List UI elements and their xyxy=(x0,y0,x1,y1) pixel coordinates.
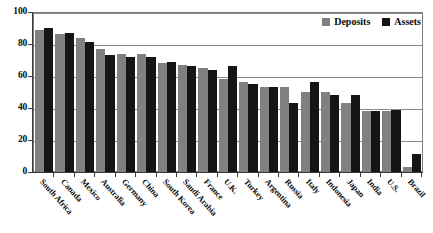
x-axis-labels: South AfricaCanadaMexicoAustraliaGermany… xyxy=(34,176,422,233)
x-label-cell: Indonesia xyxy=(320,176,340,233)
chart-legend: DepositsAssets xyxy=(322,16,421,27)
legend-item-deposits: Deposits xyxy=(322,16,370,27)
legend-item-assets: Assets xyxy=(382,16,421,27)
bar-assets xyxy=(289,103,298,172)
y-tick-label-0: 0 xyxy=(22,167,27,177)
bar-group xyxy=(116,13,136,172)
bar-deposits xyxy=(301,92,310,172)
bar-group xyxy=(136,13,156,172)
bar-deposits xyxy=(198,68,207,172)
bar-deposits xyxy=(35,30,44,172)
bar-group xyxy=(402,13,422,172)
bar-assets xyxy=(228,66,237,172)
x-tick-label: U.K. xyxy=(222,178,239,196)
x-label-cell: U.K. xyxy=(218,176,238,233)
bar-deposits xyxy=(239,82,248,172)
bar-assets xyxy=(248,84,257,172)
legend-label: Deposits xyxy=(334,16,370,27)
x-label-cell: Mexico xyxy=(75,176,95,233)
y-tick-label-100: 100 xyxy=(13,7,27,17)
y-tick-label-60: 60 xyxy=(18,71,27,81)
bar-assets xyxy=(126,57,135,172)
x-tick-label: Brazil xyxy=(406,178,426,199)
x-label-cell: South Korea xyxy=(157,176,177,233)
x-tick-label: U.S. xyxy=(385,178,401,194)
bar-deposits xyxy=(280,87,289,172)
y-tick-label-40: 40 xyxy=(18,103,27,113)
bar-assets xyxy=(167,62,176,172)
bar-assets xyxy=(85,42,94,172)
bar-deposits xyxy=(117,54,126,172)
bar-assets xyxy=(44,28,53,172)
bar-assets xyxy=(146,57,155,172)
bar-group xyxy=(197,13,217,172)
x-label-cell: U.S. xyxy=(381,176,401,233)
bar-deposits xyxy=(382,111,391,172)
x-label-cell: Australia xyxy=(95,176,115,233)
bar-assets xyxy=(105,55,114,172)
bar-deposits xyxy=(341,103,350,172)
x-label-cell: Italy xyxy=(299,176,319,233)
bar-group xyxy=(320,13,340,172)
bar-group xyxy=(54,13,74,172)
bar-group xyxy=(381,13,401,172)
x-label-cell: Saudi Arabia xyxy=(177,176,197,233)
bar-group xyxy=(157,13,177,172)
x-label-cell: South Africa xyxy=(34,176,54,233)
bar-deposits xyxy=(55,34,64,172)
y-tick-mark-60 xyxy=(28,76,33,77)
bar-assets xyxy=(412,154,421,172)
bar-deposits xyxy=(219,79,228,172)
bar-assets xyxy=(269,87,278,172)
bar-group xyxy=(95,13,115,172)
legend-swatch-icon xyxy=(382,18,390,26)
bar-group xyxy=(340,13,360,172)
bar-group xyxy=(361,13,381,172)
bar-group xyxy=(238,13,258,172)
x-label-cell: India xyxy=(361,176,381,233)
bar-deposits xyxy=(137,54,146,172)
x-label-cell: China xyxy=(136,176,156,233)
bars-container xyxy=(34,13,422,172)
x-tick-label: Italy xyxy=(303,178,320,196)
bar-deposits xyxy=(76,38,85,172)
x-label-cell: Turkey xyxy=(238,176,258,233)
y-axis: 020406080100 xyxy=(0,0,33,233)
bar-assets xyxy=(208,70,217,172)
bar-group xyxy=(218,13,238,172)
bar-deposits xyxy=(158,63,167,172)
bar-assets xyxy=(187,66,196,172)
y-tick-mark-80 xyxy=(28,44,33,45)
y-tick-label-20: 20 xyxy=(18,135,27,145)
y-tick-label-80: 80 xyxy=(18,39,27,49)
bar-deposits xyxy=(260,87,269,172)
bar-deposits xyxy=(362,111,371,172)
x-label-cell: Argentina xyxy=(259,176,279,233)
x-label-cell: Russia xyxy=(279,176,299,233)
bar-assets xyxy=(65,33,74,172)
bar-group xyxy=(34,13,54,172)
bar-deposits xyxy=(321,92,330,172)
bar-group xyxy=(279,13,299,172)
x-label-cell: France xyxy=(197,176,217,233)
bar-group xyxy=(75,13,95,172)
y-tick-mark-40 xyxy=(28,108,33,109)
y-tick-mark-20 xyxy=(28,140,33,141)
bar-deposits xyxy=(178,65,187,172)
x-label-cell: Japan xyxy=(340,176,360,233)
x-label-cell: Germany xyxy=(116,176,136,233)
y-tick-mark-100 xyxy=(28,12,33,13)
bar-group xyxy=(177,13,197,172)
x-label-cell: Brazil xyxy=(402,176,422,233)
legend-label: Assets xyxy=(394,16,421,27)
bar-deposits xyxy=(96,49,105,172)
bar-assets xyxy=(371,111,380,172)
bar-assets xyxy=(391,110,400,172)
x-label-cell: Canada xyxy=(54,176,74,233)
bar-assets xyxy=(351,95,360,172)
legend-swatch-icon xyxy=(322,18,330,26)
bar-group xyxy=(299,13,319,172)
bar-chart: 020406080100 South AfricaCanadaMexicoAus… xyxy=(0,0,433,233)
bar-assets xyxy=(330,95,339,172)
bar-group xyxy=(259,13,279,172)
